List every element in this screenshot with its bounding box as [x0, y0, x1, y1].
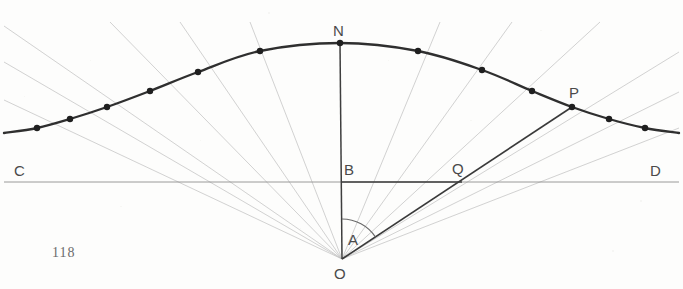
- geometry-diagram: [0, 0, 683, 289]
- angle-arc-a: [342, 219, 375, 237]
- paper-speck: [540, 30, 542, 31]
- curve-point: [147, 88, 153, 94]
- curve-point: [337, 40, 343, 46]
- curve-point: [606, 116, 612, 122]
- curve-point: [34, 125, 40, 131]
- curve-point: [257, 48, 263, 54]
- radial-right-4: [342, 52, 679, 259]
- radial-left-2: [4, 62, 342, 259]
- label-D: D: [650, 162, 661, 179]
- label-N: N: [333, 22, 344, 39]
- curve-point: [67, 116, 73, 122]
- paper-speck: [436, 198, 438, 200]
- paper-speck: [24, 96, 25, 97]
- figure-canvas: NPCDBQAO 118: [0, 0, 683, 289]
- curve-point: [104, 104, 110, 110]
- paper-speck: [200, 140, 201, 141]
- paper-speck: [640, 200, 642, 202]
- radial-left-5: [180, 22, 342, 259]
- radial-right-3: [342, 22, 600, 259]
- label-C: C: [14, 162, 25, 179]
- paper-speck: [612, 250, 614, 252]
- paper-speck: [300, 228, 301, 229]
- radial-right-2: [342, 22, 512, 259]
- vertical-line-on: [340, 43, 342, 259]
- label-O: O: [334, 265, 346, 282]
- curve-point: [569, 104, 575, 110]
- radial-right-1: [342, 22, 440, 259]
- curve-point: [479, 67, 485, 73]
- paper-speck: [90, 60, 91, 61]
- page-number: 118: [52, 245, 75, 261]
- curve-point: [195, 69, 201, 75]
- curve-point: [415, 48, 421, 54]
- radial-right-5: [342, 92, 679, 259]
- label-B: B: [344, 161, 355, 178]
- curve-point: [642, 125, 648, 131]
- paper-speck: [120, 206, 122, 207]
- paper-speck: [268, 12, 270, 14]
- radial-left-1: [4, 26, 342, 259]
- curve-point: [529, 88, 535, 94]
- paper-speck: [388, 60, 389, 61]
- label-P: P: [569, 84, 580, 101]
- label-A: A: [348, 231, 359, 248]
- radial-left-4: [110, 22, 342, 259]
- paper-speck: [470, 120, 472, 121]
- label-Q: Q: [452, 160, 464, 177]
- radial-left-6: [250, 22, 342, 259]
